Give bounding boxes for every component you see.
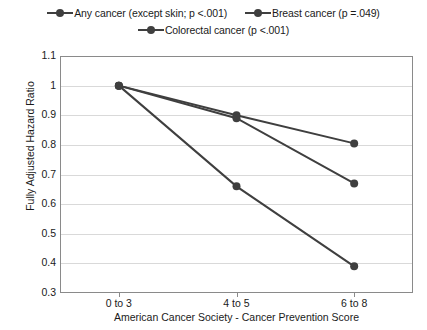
x-tick-label: 4 to 5 (202, 297, 272, 309)
x-tick-label: 6 to 8 (319, 297, 389, 309)
x-tick-mark (354, 293, 355, 297)
y-axis-title: Fully Adjusted Hazard Ratio (24, 46, 36, 246)
y-tick-label: 0.4 (10, 257, 56, 268)
x-tick-mark (119, 293, 120, 297)
x-tick-mark (237, 293, 238, 297)
x-axis-title: American Cancer Society - Cancer Prevent… (60, 311, 413, 323)
x-tick-label: 0 to 3 (84, 297, 154, 309)
y-tick-label: 0.3 (10, 287, 56, 298)
y-axis-ticks: 1.110.90.80.70.60.50.40.3 (0, 0, 427, 330)
